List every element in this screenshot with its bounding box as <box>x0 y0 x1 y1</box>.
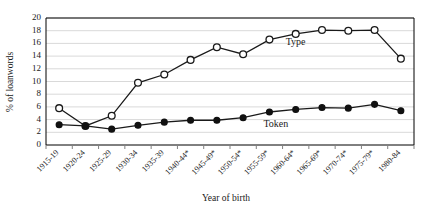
series-line-type <box>59 30 401 126</box>
data-point-token <box>83 123 89 129</box>
y-axis-tick-labels: 02468101214161820 <box>32 12 42 149</box>
data-point-token <box>214 117 220 123</box>
x-axis-tick-label: 1980-84 <box>377 148 403 174</box>
data-point-token <box>267 109 273 115</box>
data-point-token <box>293 107 299 113</box>
series-annotation-token: Token <box>263 118 288 129</box>
x-axis-tick-labels: 1915-191920-241925-291930-341935-391940-… <box>35 148 402 177</box>
data-point-token <box>161 119 167 125</box>
y-axis-tick-label: 20 <box>32 12 42 22</box>
data-point-token <box>135 122 141 128</box>
chart-container: 02468101214161820 1915-191920-241925-291… <box>0 0 422 210</box>
data-point-token <box>56 122 62 128</box>
y-axis-tick-label: 14 <box>32 50 42 60</box>
data-point-token <box>398 108 404 114</box>
x-axis-tick-label: 1935-39 <box>140 148 166 174</box>
data-point-type <box>56 105 63 112</box>
data-point-type <box>213 44 220 51</box>
data-point-token <box>372 101 378 107</box>
data-point-type <box>161 71 168 78</box>
x-axis-tick-label: 1970-74* <box>321 148 350 177</box>
data-point-token <box>188 117 194 123</box>
y-axis-tick-label: 2 <box>37 126 42 136</box>
data-point-token <box>109 126 115 132</box>
data-point-type <box>266 36 273 43</box>
x-axis-tick-label: 1915-19 <box>35 148 61 174</box>
y-axis-tick-label: 8 <box>37 88 42 98</box>
data-point-token <box>345 105 351 111</box>
x-axis-tick-label: 1925-29 <box>87 148 113 174</box>
series-annotation-type: Type <box>286 36 306 47</box>
x-axis-tick-label: 1960-64* <box>269 148 298 177</box>
data-point-type <box>187 57 194 64</box>
series-markers <box>56 27 405 132</box>
x-axis-ticks <box>46 145 414 149</box>
x-axis-tick-label: 1965-69* <box>295 148 324 177</box>
y-axis-tick-label: 18 <box>32 25 42 35</box>
y-axis-tick-label: 10 <box>32 76 42 86</box>
data-point-type <box>108 112 115 119</box>
x-axis-tick-label: 1940-44* <box>163 148 192 177</box>
x-axis-tick-label: 1945-49* <box>190 148 219 177</box>
y-axis-tick-label: 16 <box>32 37 42 47</box>
y-axis-title: % of loanwords <box>5 52 15 112</box>
y-axis-tick-label: 12 <box>32 63 41 73</box>
gridlines <box>46 18 414 132</box>
y-axis-tick-label: 4 <box>37 114 42 124</box>
x-axis-title: Year of birth <box>202 193 250 203</box>
y-axis-tick-label: 6 <box>37 101 42 111</box>
data-point-type <box>371 27 378 34</box>
data-point-token <box>240 115 246 121</box>
data-point-type <box>319 27 326 34</box>
data-point-type <box>135 79 142 86</box>
data-point-type <box>397 55 404 62</box>
x-axis-tick-label: 1955-59* <box>242 148 271 177</box>
x-axis-tick-label: 1950-54* <box>216 148 245 177</box>
x-axis-tick-label: 1930-34 <box>114 148 140 174</box>
y-axis-tick-label: 0 <box>37 139 42 149</box>
x-axis-tick-label: 1975-79* <box>347 148 376 177</box>
loanwords-line-chart: 02468101214161820 1915-191920-241925-291… <box>0 0 422 210</box>
data-point-type <box>345 27 352 34</box>
data-point-token <box>319 105 325 111</box>
data-point-type <box>240 51 247 58</box>
x-axis-tick-label: 1920-24 <box>61 148 87 174</box>
